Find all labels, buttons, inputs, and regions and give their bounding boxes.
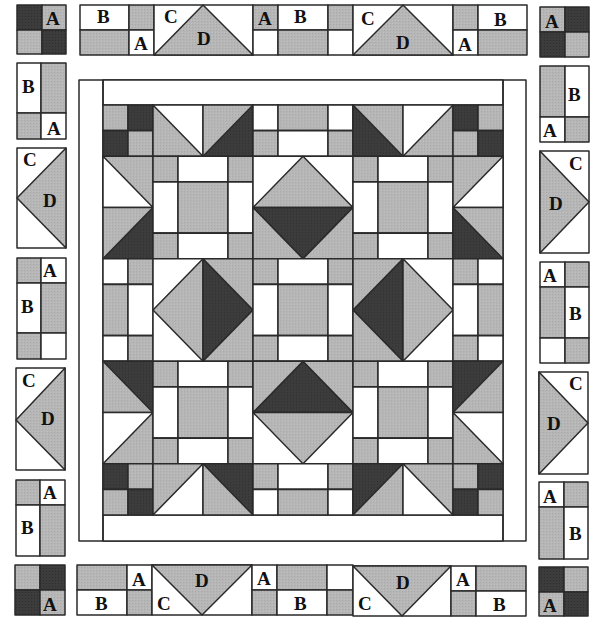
label-c: C <box>569 373 583 394</box>
corner-four-patch-bottom-left <box>15 565 65 615</box>
label-b: B <box>21 296 34 317</box>
label-c: C <box>361 8 375 29</box>
quilt-center <box>103 105 503 515</box>
label-c: C <box>358 593 372 614</box>
label-d: D <box>396 32 410 53</box>
label-b: B <box>494 9 507 30</box>
label-a: A <box>46 8 60 29</box>
label-a: A <box>47 118 61 139</box>
label-d: D <box>396 572 410 593</box>
label-b: B <box>294 593 307 614</box>
label-b: B <box>97 6 110 27</box>
label-c: C <box>157 593 171 614</box>
label-c: C <box>22 370 36 391</box>
label-a: A <box>43 260 57 281</box>
label-b: B <box>95 593 108 614</box>
label-a: A <box>134 33 148 54</box>
label-d: D <box>43 190 57 211</box>
label-b: B <box>21 517 34 538</box>
label-a: A <box>132 569 146 590</box>
label-b: B <box>569 523 582 544</box>
label-b: B <box>294 6 307 27</box>
label-a: A <box>456 569 470 590</box>
label-a: A <box>545 11 559 32</box>
label-a: A <box>543 595 557 616</box>
label-a: A <box>43 594 57 615</box>
label-c: C <box>164 6 178 27</box>
label-d: D <box>195 570 209 591</box>
label-a: A <box>543 265 557 286</box>
label-d: D <box>547 413 561 434</box>
label-a: A <box>43 482 57 503</box>
label-b: B <box>493 594 506 615</box>
label-a: A <box>543 120 557 141</box>
label-b: B <box>568 84 581 105</box>
label-a: A <box>257 568 271 589</box>
label-b: B <box>569 303 582 324</box>
label-b: B <box>22 76 35 97</box>
label-a: A <box>258 8 272 29</box>
label-d: D <box>41 408 55 429</box>
label-a: A <box>458 34 472 55</box>
label-d: D <box>549 193 563 214</box>
label-d: D <box>197 28 211 49</box>
label-a: A <box>543 486 557 507</box>
quilt-diagram: A B A C D A B C D A B A B A C D A B C D … <box>0 0 599 635</box>
label-c: C <box>569 153 583 174</box>
label-c: C <box>23 149 37 170</box>
